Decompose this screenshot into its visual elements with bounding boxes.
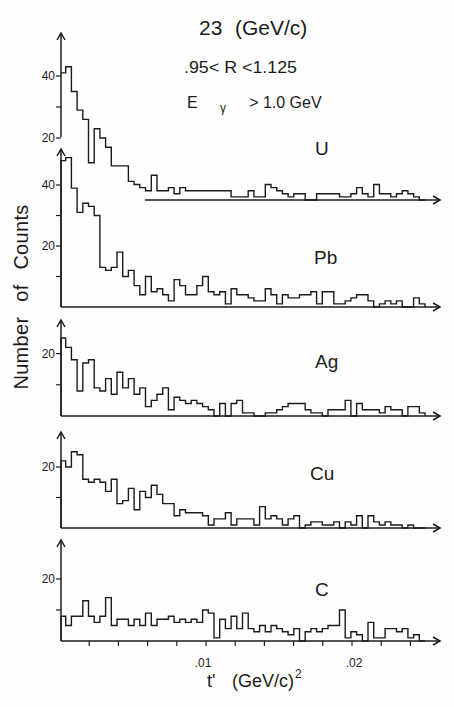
x-axis-symbol: t': [207, 671, 215, 691]
panel-label-ag: Ag: [315, 351, 338, 372]
histogram-u: [61, 67, 425, 200]
panel-pb: [56, 149, 440, 311]
energy-symbol: E: [187, 94, 198, 111]
energy-condition: > 1.0 GeV: [249, 94, 322, 111]
y-tick-label-pb-20: 20: [42, 239, 56, 253]
panel-label-pb: Pb: [314, 247, 337, 268]
panel-label-cu: Cu: [310, 463, 334, 484]
x-axis-unit: (GeV/c): [232, 671, 294, 691]
histogram-pb: [61, 158, 425, 307]
histogram-cu: [61, 452, 425, 528]
x-tick-label-002: .02: [346, 656, 363, 670]
histogram-c: [61, 598, 425, 641]
beam-momentum-unit: (GeV/c): [235, 16, 307, 39]
y-tick-label-u-20: 20: [42, 131, 56, 145]
panel-label-c: C: [315, 579, 329, 600]
panel-cu: [56, 432, 440, 532]
y-tick-label-pb-40: 40: [42, 178, 56, 192]
panel-ag: [56, 320, 440, 420]
beam-momentum-title: 23 (GeV/c): [0, 16, 325, 39]
x-axis-title: t' (GeV/c) 2: [0, 662, 319, 691]
energy-subscript: γ: [220, 101, 226, 115]
x-axis-exponent: 2: [295, 667, 302, 681]
histogram-figure: 23 (GeV/c) .95< R <1.125 E γ > 1.0 GeV N…: [0, 0, 454, 707]
r-range-cut: .95< R <1.125: [184, 59, 297, 76]
panel-label-u: U: [315, 138, 329, 159]
y-tick-label-u-40: 40: [42, 69, 56, 83]
x-tick-label-001: .01: [195, 656, 212, 670]
y-tick-label-cu-20: 20: [42, 460, 56, 474]
beam-momentum-value: 23: [199, 16, 222, 39]
y-axis-title: Number of Counts: [10, 204, 32, 389]
panel-c: [56, 540, 440, 646]
histogram-ag: [61, 338, 425, 416]
y-tick-label-c-20: 20: [42, 572, 56, 586]
y-tick-label-ag-20: 20: [42, 347, 56, 361]
photon-energy-cut: E γ > 1.0 GeV: [0, 94, 335, 115]
